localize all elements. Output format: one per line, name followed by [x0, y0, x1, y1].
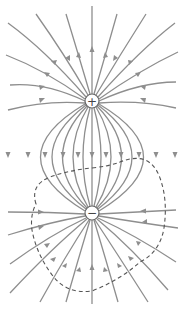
- electric-field-diagram: + −: [0, 0, 188, 312]
- negative-charge-label: −: [87, 206, 97, 220]
- positive-charge-label: +: [87, 95, 97, 109]
- positive-charge: +: [85, 94, 99, 109]
- inward-field-lines-negative: [8, 210, 178, 304]
- negative-charge: −: [85, 206, 99, 221]
